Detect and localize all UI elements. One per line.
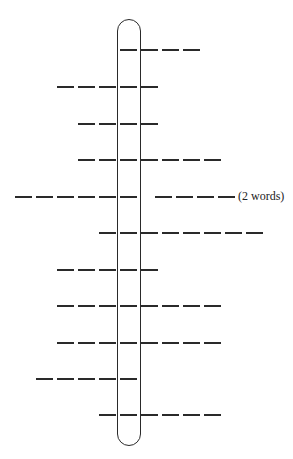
letter-blank [99,123,116,125]
letter-blank [204,305,221,307]
letter-blank [120,378,137,380]
letter-blank [78,196,95,198]
letter-blank [162,342,179,344]
letter-blank [176,196,193,198]
letter-blank [246,232,263,234]
letter-blank [57,378,74,380]
letter-blank [120,159,137,161]
letter-blank [162,49,179,51]
puzzle-row-9 [0,342,293,344]
letter-blank [162,305,179,307]
puzzle-row-7 [0,269,293,271]
letter-blank [204,414,221,416]
letter-blank [120,305,137,307]
letter-blank [120,196,137,198]
letter-blank [183,159,200,161]
letter-blank [36,378,53,380]
letter-blank [162,159,179,161]
letter-blank [204,342,221,344]
letter-blank [141,232,158,234]
two-words-note: (2 words) [238,189,284,204]
puzzle-row-6 [0,232,293,234]
puzzle-row-2 [0,86,293,88]
letter-blank [120,123,137,125]
puzzle-row-8 [0,305,293,307]
letter-blank [99,269,116,271]
puzzle-row-11 [0,414,293,416]
letter-blank [162,232,179,234]
letter-blank [78,305,95,307]
letter-blank [78,159,95,161]
letter-blank [141,123,158,125]
letter-blank [141,342,158,344]
letter-blank [218,196,235,198]
letter-blank [183,49,200,51]
letter-blank [57,269,74,271]
letter-blank [120,414,137,416]
letter-blank [57,196,74,198]
letter-blank [183,232,200,234]
letter-blank [15,196,32,198]
letter-blank [183,305,200,307]
letter-blank [78,342,95,344]
letter-blank [162,414,179,416]
letter-blank [78,123,95,125]
letter-blank [120,86,137,88]
letter-blank [99,232,116,234]
letter-blank [78,269,95,271]
letter-blank [141,305,158,307]
puzzle-row-10 [0,378,293,380]
letter-blank [57,342,74,344]
letter-blank [99,196,116,198]
letter-blank [120,49,137,51]
letter-blank [204,159,221,161]
letter-blank [57,86,74,88]
letter-blank [78,378,95,380]
letter-blank [99,305,116,307]
letter-blank [120,232,137,234]
letter-blank [225,232,242,234]
puzzle-row-4 [0,159,293,161]
letter-blank [57,305,74,307]
letter-blank [120,342,137,344]
letter-blank [99,86,116,88]
letter-blank [204,232,221,234]
letter-blank [141,414,158,416]
letter-blank [78,86,95,88]
puzzle-row-1 [0,49,293,51]
letter-blank [36,196,53,198]
letter-blank [183,414,200,416]
letter-blank [99,378,116,380]
letter-blank [141,269,158,271]
letter-blank [183,342,200,344]
letter-blank [141,86,158,88]
letter-blank [197,196,214,198]
letter-blank [155,196,172,198]
letter-blank [141,49,158,51]
letter-blank [141,159,158,161]
letter-blank [99,159,116,161]
letter-blank [99,414,116,416]
puzzle-row-3 [0,123,293,125]
acrostic-puzzle: (2 words) [0,0,293,459]
letter-blank [120,269,137,271]
letter-blank [99,342,116,344]
